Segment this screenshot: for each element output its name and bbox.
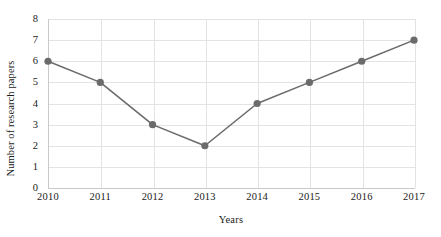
y-axis-tick-label: 1 (0, 162, 44, 173)
y-axis-tick-label: 4 (0, 98, 44, 109)
x-axis-tick-label: 2013 (194, 192, 216, 203)
y-axis-tick-label: 6 (0, 56, 44, 67)
data-point-marker (254, 100, 261, 107)
line-chart-figure: Number of research papers Years 01234567… (0, 0, 441, 237)
x-axis-tick-label: 2011 (90, 192, 111, 203)
y-axis-tick-label: 2 (0, 141, 44, 152)
x-axis-tick-label: 2014 (246, 192, 268, 203)
data-point-marker (201, 142, 208, 149)
x-axis-tick-label: 2015 (299, 192, 321, 203)
series-line (48, 40, 414, 146)
gridline-vertical (415, 19, 416, 188)
data-series-layer (48, 19, 414, 188)
data-point-marker (410, 37, 417, 44)
y-axis-tick-label: 5 (0, 77, 44, 88)
data-point-marker (149, 121, 156, 128)
x-axis-tick-label: 2016 (351, 192, 373, 203)
y-axis-tick-label: 7 (0, 35, 44, 46)
data-point-marker (44, 58, 51, 65)
data-point-marker (97, 79, 104, 86)
data-point-marker (306, 79, 313, 86)
x-axis-tick-label: 2012 (142, 192, 164, 203)
x-axis-tick-label: 2010 (37, 192, 59, 203)
data-point-marker (358, 58, 365, 65)
y-axis-tick-label: 3 (0, 119, 44, 130)
y-axis-tick-label: 8 (0, 14, 44, 25)
x-axis-title: Years (48, 214, 414, 225)
x-axis-tick-label: 2017 (403, 192, 425, 203)
series-markers (44, 37, 417, 150)
